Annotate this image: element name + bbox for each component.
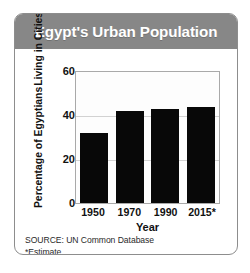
y-tick-0: 0 (39, 198, 75, 209)
estimate-note: *Estimate (25, 247, 154, 256)
plot-area (75, 71, 220, 204)
x-axis-ticks: 1950 1970 1990 2015* (75, 206, 220, 218)
source-note: SOURCE: UN Common Database *Estimate (25, 235, 154, 255)
page-title: Egypt's Urban Population (35, 23, 218, 40)
bar-series (76, 72, 219, 203)
figure-root: Egypt's Urban Population Percentage of E… (0, 0, 250, 273)
y-axis-ticks: 60 40 20 0 (39, 49, 75, 255)
y-tick-60: 60 (39, 66, 75, 77)
chart-area: Percentage of Egyptians Living in Cities… (15, 49, 237, 255)
bar-1990 (151, 109, 179, 203)
chart-card: Egypt's Urban Population Percentage of E… (14, 13, 238, 255)
x-tick-1950: 1950 (76, 206, 110, 218)
bar-1950 (80, 133, 108, 203)
x-tick-2015: 2015* (185, 206, 219, 218)
y-tick-20: 20 (39, 154, 75, 165)
x-tick-1970: 1970 (112, 206, 146, 218)
bar-1970 (116, 111, 144, 203)
x-tick-1990: 1990 (149, 206, 183, 218)
x-axis-label: Year (75, 221, 220, 233)
bar-2015 (187, 107, 215, 203)
chart-title-band: Egypt's Urban Population (15, 14, 237, 49)
source-line: SOURCE: UN Common Database (25, 235, 154, 247)
y-tick-40: 40 (39, 110, 75, 121)
